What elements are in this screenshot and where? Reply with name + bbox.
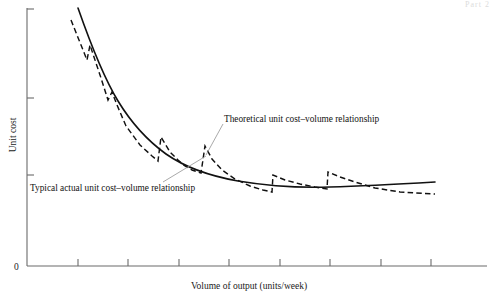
cost-volume-figure: Part 2 Unit cost Volume o — [0, 0, 498, 303]
leader-line-typical — [163, 156, 206, 182]
annotation-typical-curve: Typical actual unit cost–volume relation… — [30, 183, 195, 193]
chart-canvas — [0, 0, 498, 303]
x-axis-ticks — [78, 259, 431, 266]
axes-group — [27, 8, 487, 266]
actual-cost-curve — [71, 20, 435, 194]
theoretical-cost-curve — [78, 8, 435, 187]
y-axis-title: Unit cost — [8, 105, 18, 165]
annotation-theoretical-curve: Theoretical unit cost–volume relationshi… — [224, 114, 379, 124]
leader-line-theoretical — [206, 124, 223, 155]
y-axis-ticks — [27, 9, 34, 175]
origin-tick-label: 0 — [14, 262, 19, 272]
x-axis-title: Volume of output (units/week) — [0, 281, 498, 291]
